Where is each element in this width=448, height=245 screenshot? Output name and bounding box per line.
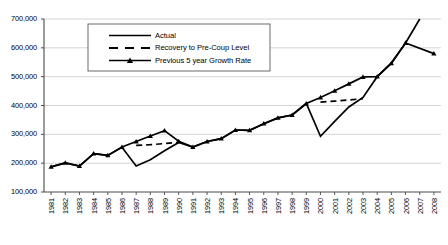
x-axis-label-2002: 2002 xyxy=(345,198,354,214)
x-axis-label-1998: 1998 xyxy=(288,198,297,214)
x-axis-label-2007: 2007 xyxy=(416,198,425,214)
x-axis-label-1991: 1991 xyxy=(189,198,198,214)
x-axis-label-2006: 2006 xyxy=(402,198,411,214)
x-axis-label-2003: 2003 xyxy=(359,198,368,214)
y-axis-label-200000: 200,000 xyxy=(1,158,37,167)
x-axis-label-1987: 1987 xyxy=(132,198,141,214)
x-axis-label-1994: 1994 xyxy=(231,198,240,214)
y-axis-label-600000: 600,000 xyxy=(1,43,37,52)
x-axis-label-1983: 1983 xyxy=(75,198,84,214)
y-axis-label-400000: 400,000 xyxy=(1,101,37,110)
y-axis-label-100000: 100,000 xyxy=(1,187,37,196)
chart-container: 700,000600,000500,000400,000300,000200,0… xyxy=(0,0,448,245)
x-axis-label-1984: 1984 xyxy=(90,198,99,214)
x-axis-label-1997: 1997 xyxy=(274,198,283,214)
x-axis-label-1999: 1999 xyxy=(302,198,311,214)
legend-label-recovery-to-pre-coup-level: Recovery to Pre-Coup Level xyxy=(155,43,249,52)
x-axis-label-1993: 1993 xyxy=(217,198,226,214)
x-axis-label-2008: 2008 xyxy=(430,198,439,214)
y-axis-label-500000: 500,000 xyxy=(1,72,37,81)
y-axis-label-300000: 300,000 xyxy=(1,129,37,138)
series-marker-triangle xyxy=(162,128,167,133)
x-axis-label-2004: 2004 xyxy=(373,198,382,214)
legend-label-actual: Actual xyxy=(155,31,176,40)
x-axis-label-1986: 1986 xyxy=(118,198,127,214)
x-axis-label-1981: 1981 xyxy=(47,198,56,214)
x-axis-label-1996: 1996 xyxy=(260,198,269,214)
series-line-recovery-to-pre-coup-level xyxy=(136,142,179,145)
x-axis-label-1985: 1985 xyxy=(104,198,113,214)
y-axis-label-700000: 700,000 xyxy=(1,14,37,23)
x-axis-label-1988: 1988 xyxy=(146,198,155,214)
x-axis-label-2005: 2005 xyxy=(387,198,396,214)
x-axis-label-1989: 1989 xyxy=(161,198,170,214)
x-axis-label-2001: 2001 xyxy=(331,198,340,214)
x-axis-label-2000: 2000 xyxy=(316,198,325,214)
x-axis-label-1992: 1992 xyxy=(203,198,212,214)
x-axis-label-1995: 1995 xyxy=(246,198,255,214)
x-axis-label-1990: 1990 xyxy=(175,198,184,214)
legend-label-previous-5-year-growth-rate: Previous 5 year Growth Rate xyxy=(155,56,251,65)
x-axis-label-1982: 1982 xyxy=(61,198,70,214)
